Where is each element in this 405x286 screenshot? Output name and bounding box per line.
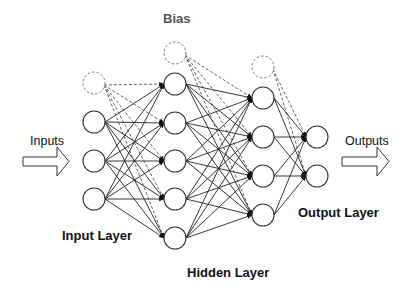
neuron-hidden-1-1 (164, 112, 186, 134)
neuron-hidden-1-3 (164, 188, 186, 210)
neuron-hidden-1-2 (164, 150, 186, 172)
edge-input-1-to-hidden-1-4 (105, 161, 164, 238)
output-layer-label: Output Layer (298, 205, 379, 220)
neuron-hidden-2-3 (252, 204, 274, 226)
neuron-input-0 (83, 111, 105, 133)
edge-hidden-1-3-to-hidden-2-0 (186, 98, 252, 199)
hidden-layer-label: Hidden Layer (187, 265, 269, 280)
outputs-arrow-icon (342, 147, 389, 176)
edge-input-2-to-hidden-1-0 (105, 84, 164, 199)
bias-label: Bias (163, 11, 190, 26)
neuron-input-2 (83, 188, 105, 210)
bias-node-hidden-2 (252, 56, 274, 78)
neuron-hidden-2-1 (252, 126, 274, 148)
neuron-hidden-2-2 (252, 165, 274, 187)
inputs-arrow-icon (23, 147, 69, 176)
input-layer-label: Input Layer (62, 228, 132, 243)
edge-hidden-1-0-to-hidden-2-0 (186, 84, 252, 98)
bias-edge-input-to-hidden-1-0 (104, 84, 164, 85)
neural-network-diagram: Bias Inputs Outputs Input Layer Hidden L… (0, 0, 405, 286)
bias-node-input (83, 72, 105, 94)
neurons (83, 42, 328, 249)
neuron-input-1 (83, 150, 105, 172)
weight-connections (105, 84, 306, 238)
neuron-hidden-2-0 (252, 87, 274, 109)
neuron-output-0 (306, 126, 328, 148)
neuron-output-1 (306, 165, 328, 187)
neuron-hidden-1-4 (164, 227, 186, 249)
bias-edge-hidden-2-to-output-1 (273, 69, 306, 176)
bias-node-hidden-1 (164, 42, 186, 64)
outputs-label: Outputs (345, 134, 389, 148)
neuron-hidden-1-0 (164, 73, 186, 95)
edge-hidden-2-0-to-output-0 (274, 98, 306, 137)
inputs-label: Inputs (30, 134, 64, 148)
edge-hidden-1-4-to-hidden-2-3 (186, 215, 252, 238)
